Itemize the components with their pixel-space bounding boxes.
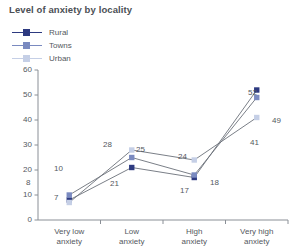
data-point-urban-3 — [254, 115, 259, 120]
data-value-label: 49 — [272, 116, 281, 125]
data-value-label: 24 — [178, 152, 187, 161]
y-tick-label: 30 — [10, 140, 32, 149]
plot-area — [0, 0, 296, 247]
data-point-urban-0 — [67, 200, 72, 205]
y-tick-label: 20 — [10, 165, 32, 174]
data-value-label: 7 — [54, 193, 58, 202]
y-tick-label: 40 — [10, 115, 32, 124]
series-line-urban — [69, 118, 257, 203]
data-point-towns-1 — [129, 155, 134, 160]
data-value-label: 28 — [103, 140, 112, 149]
data-point-urban-1 — [129, 147, 134, 152]
data-point-rural-1 — [129, 165, 134, 170]
data-point-towns-2 — [192, 172, 197, 177]
anxiety-line-chart: Level of anxiety by locality Rural Towns… — [0, 0, 296, 247]
data-value-label: 18 — [210, 178, 219, 187]
data-value-label: 25 — [136, 145, 145, 154]
series-line-towns — [69, 98, 257, 196]
x-tick-label: Very highanxiety — [225, 227, 289, 246]
x-tick-label: Very lowanxiety — [37, 227, 101, 246]
y-tick-label: 50 — [10, 90, 32, 99]
x-tick-label: Lowanxiety — [100, 227, 164, 246]
series-line-rural — [69, 90, 257, 200]
y-tick-label: 60 — [10, 65, 32, 74]
x-tick-label: Highanxiety — [162, 227, 226, 246]
data-value-label: 52 — [248, 88, 257, 97]
data-value-label: 17 — [180, 186, 189, 195]
data-point-urban-2 — [192, 157, 197, 162]
y-tick-label: 0 — [10, 215, 32, 224]
data-point-towns-0 — [67, 192, 72, 197]
data-value-label: 41 — [250, 138, 259, 147]
data-value-label: 8 — [26, 178, 30, 187]
data-value-label: 21 — [110, 179, 119, 188]
data-value-label: 10 — [54, 164, 63, 173]
y-tick-label: 10 — [10, 190, 32, 199]
